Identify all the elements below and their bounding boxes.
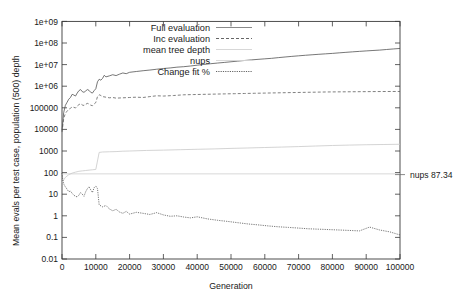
y-tick-label: 1e+09 (34, 17, 58, 27)
x-tick-label: 90000 (354, 262, 378, 272)
x-tick-label: 10000 (84, 262, 108, 272)
x-tick-label: 40000 (185, 262, 209, 272)
nups-annotation-label: nups 87.34 (410, 170, 453, 180)
legend-label-full-evaluation: Full evaluation (151, 23, 210, 33)
x-tick-label: 100000 (386, 262, 415, 272)
chart-legend: Full evaluation Inc evaluation mean tree… (143, 23, 252, 77)
x-tick-label: 60000 (253, 262, 277, 272)
x-tick-label: 0 (60, 262, 65, 272)
y-tick-label: 10 (49, 189, 59, 199)
x-axis-title: Generation (209, 281, 253, 291)
y-tick-label: 0.01 (41, 254, 58, 264)
legend-label-nups: nups (190, 56, 210, 66)
x-tick-label: 30000 (152, 262, 176, 272)
data-series-group (62, 48, 400, 235)
series-line-inc-evaluation (62, 91, 400, 132)
x-tick-label: 70000 (287, 262, 311, 272)
x-tick-label: 80000 (321, 262, 345, 272)
y-tick-labels: 1e+09 1e+08 1e+07 1e+06 100000 10000 100… (30, 17, 59, 265)
y-tick-marks (62, 21, 400, 259)
plot-frame (62, 21, 400, 259)
y-tick-label: 1e+08 (34, 38, 58, 48)
x-tick-label: 50000 (219, 262, 243, 272)
y-tick-label: 100000 (30, 103, 59, 113)
chart-figure: Mean evals per test case, population (50… (0, 0, 466, 301)
legend-label-change-fit: Change fit % (157, 67, 210, 77)
x-tick-labels: 0 10000 20000 30000 40000 50000 60000 70… (60, 262, 415, 272)
y-tick-label: 0.1 (46, 232, 58, 242)
nups-annotation: nups 87.34 (395, 170, 453, 180)
series-line-mean-tree-depth (62, 144, 400, 182)
y-axis-title: Mean evals per test case, population (50… (11, 55, 21, 246)
x-tick-label: 20000 (118, 262, 142, 272)
legend-label-mean-tree-depth: mean tree depth (143, 45, 210, 55)
y-tick-label: 1 (53, 211, 58, 221)
y-tick-label: 1e+06 (34, 81, 58, 91)
x-tick-marks (62, 21, 400, 259)
series-line-change-fit (62, 173, 400, 235)
legend-label-inc-evaluation: Inc evaluation (153, 34, 210, 44)
y-tick-label: 100 (44, 168, 58, 178)
chart-svg: Mean evals per test case, population (50… (0, 0, 466, 301)
y-tick-label: 10000 (34, 124, 58, 134)
y-tick-label: 1e+07 (34, 60, 58, 70)
y-tick-label: 1000 (39, 146, 58, 156)
